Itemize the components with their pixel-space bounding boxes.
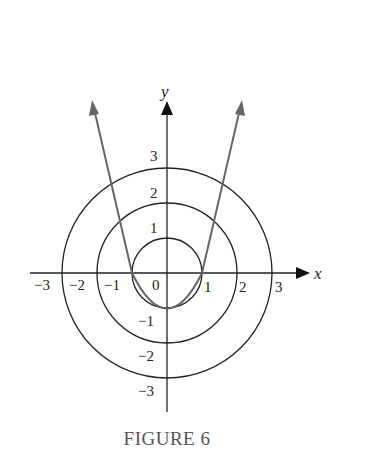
y-tick-label: −2 xyxy=(138,348,154,364)
x-tick-label: 3 xyxy=(275,279,283,295)
x-tick-label: 2 xyxy=(239,279,247,295)
y-tick-label: 3 xyxy=(150,148,158,164)
y-tick-label: −1 xyxy=(138,313,154,329)
parabola-right-arrow-icon xyxy=(235,100,245,116)
x-axis-arrow-icon xyxy=(296,267,310,279)
y-tick-label: 1 xyxy=(150,220,158,236)
y-tick-label: 2 xyxy=(150,185,158,201)
x-tick-label: −2 xyxy=(69,277,85,293)
origin-label: 0 xyxy=(152,277,160,293)
x-tick-label: 1 xyxy=(204,279,212,295)
figure-graph: y x −3 −2 −1 0 1 2 3 3 2 1 −1 −2 −3 xyxy=(0,0,378,463)
x-axis-label: x xyxy=(313,264,322,283)
y-tick-label: −3 xyxy=(138,383,154,399)
x-tick-label: −1 xyxy=(104,277,120,293)
figure-caption: FIGURE 6 xyxy=(0,428,334,450)
x-tick-label: −3 xyxy=(34,277,50,293)
parabola-left-arrow-icon xyxy=(89,100,99,116)
y-axis-label: y xyxy=(159,82,169,101)
y-axis-arrow-icon xyxy=(161,101,173,115)
